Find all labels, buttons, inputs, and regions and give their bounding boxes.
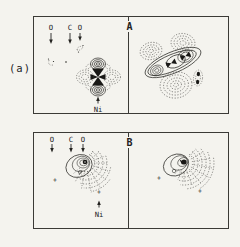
contour-map-a-right: [129, 17, 228, 113]
metal-label-b: Ni: [95, 210, 104, 219]
contour-figure: (a) O C O: [0, 0, 240, 247]
ni-site-contours: [77, 58, 121, 96]
plus-marker-b-left-2: +: [97, 188, 101, 196]
minor-dumbbell-right-a: [193, 70, 204, 87]
dashed-fan-b-right: [175, 149, 214, 189]
atom-label-o2-b: O: [81, 135, 85, 144]
plus-marker-b-right-2: +: [198, 187, 202, 195]
atom-arrow-c-b: [69, 144, 73, 153]
figure-label: (a): [9, 62, 31, 74]
atom-arrow-o1-b: [50, 144, 54, 153]
atom-label-o1-b: O: [50, 135, 54, 144]
dashed-lobe-upper-left-a: [138, 40, 164, 62]
panel-a: O C O: [33, 16, 229, 114]
solid-bond-contours-a: [141, 41, 204, 84]
solid-contours-b-left: [62, 150, 96, 181]
metal-label-a: Ni: [94, 105, 103, 114]
panel-b: O C O: [33, 132, 229, 229]
atom-label-o1-a: O: [49, 23, 53, 32]
contour-map-b-right: + +: [129, 133, 228, 228]
panel-b-label: B: [123, 137, 136, 148]
atom-label-c-b: C: [69, 135, 73, 144]
minor-contour-o2-a: [77, 45, 84, 53]
site-marker-c-a: [65, 61, 67, 63]
atom-arrow-o2-a: [78, 33, 82, 41]
solid-contours-b-right: [160, 150, 192, 180]
contour-map-b-left: O C O: [34, 133, 128, 228]
panel-a-label: A: [123, 21, 136, 32]
minor-contour-o1-a: [48, 58, 54, 65]
atom-arrow-o2-b: [81, 144, 85, 153]
ni-arrow-a: [96, 97, 100, 104]
ni-arrow-b: [97, 201, 101, 208]
atom-label-c-a: C: [68, 23, 72, 32]
contour-map-a-left: O C O: [34, 17, 128, 113]
atom-arrow-c-a: [68, 33, 72, 44]
plus-marker-b-left-1: +: [53, 176, 57, 184]
atom-arrow-o1-a: [49, 33, 53, 44]
atom-label-o2-a: O: [78, 23, 82, 32]
plus-marker-b-right-1: +: [157, 174, 161, 182]
